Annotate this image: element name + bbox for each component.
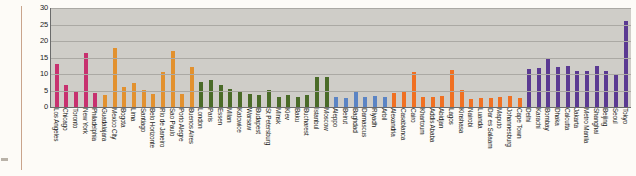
gridline-30 <box>51 8 631 9</box>
bar <box>566 66 570 107</box>
x-label-slot: Shanghai <box>591 108 601 176</box>
bar <box>142 90 146 107</box>
x-tick-label: Bombay <box>544 108 550 131</box>
x-tick-label: Arbil <box>380 108 386 120</box>
x-label-slot: Warsaw <box>244 108 254 176</box>
bar <box>392 93 396 107</box>
bar <box>74 92 78 107</box>
x-tick-label: Tokyo <box>621 108 627 124</box>
x-label-slot: Seoul <box>610 108 620 176</box>
x-label-slot: Riyadh <box>369 108 379 176</box>
x-label-slot: Aleppo <box>331 108 341 176</box>
bar <box>363 97 367 107</box>
x-tick-label: Santiago <box>139 108 145 132</box>
bar <box>383 97 387 107</box>
x-tick-label: Jakarta <box>573 108 579 128</box>
x-tick-label: Damascus <box>361 108 367 137</box>
bar <box>84 53 88 107</box>
x-tick-label: Budapest <box>255 108 261 134</box>
x-tick-label: Paris <box>207 108 213 122</box>
x-tick-label: Cape Town <box>515 108 521 139</box>
x-tick-label: Baku <box>294 108 300 122</box>
x-label-slot: Minsk <box>273 108 283 176</box>
bar <box>296 97 300 107</box>
bar <box>103 95 107 107</box>
bar <box>604 71 608 107</box>
x-tick-label: Minsk <box>274 108 280 124</box>
bar <box>489 98 493 107</box>
x-label-slot: Karachi <box>533 108 543 176</box>
x-tick-label: Calcutta <box>564 108 570 130</box>
bar <box>421 97 425 107</box>
x-tick-label: Buenos Aires <box>188 108 194 144</box>
bar <box>518 98 522 107</box>
bar <box>64 85 68 107</box>
x-label-slot: Philadelphia <box>90 108 100 176</box>
x-label-slot: Los Angeles <box>51 108 61 176</box>
x-label-slot: Lagos <box>446 108 456 176</box>
bar <box>93 93 97 107</box>
y-tick-label-0: 0 <box>44 103 48 111</box>
x-label-slot: Abidjan <box>437 108 447 176</box>
bar <box>180 94 184 107</box>
bar <box>402 92 406 107</box>
x-tick-label: Mexico City <box>110 108 116 139</box>
x-label-slot: Bogota <box>118 108 128 176</box>
x-tick-label: Alexandria <box>390 108 396 137</box>
x-label-slot: Essen <box>215 108 225 176</box>
bar <box>450 70 454 107</box>
bar <box>469 99 473 107</box>
x-label-slot: Calcutta <box>562 108 572 176</box>
x-label-slot: Baghdad <box>350 108 360 176</box>
x-tick-label: Chicago <box>62 108 68 130</box>
x-label-slot: Bombay <box>543 108 553 176</box>
x-label-slot: Kiev <box>282 108 292 176</box>
bar <box>508 96 512 107</box>
bar <box>595 66 599 107</box>
x-label-slot: Budapest <box>253 108 263 176</box>
x-tick-label: Dar es Salaam <box>486 108 492 148</box>
x-label-slot: Damascus <box>360 108 370 176</box>
x-label-slot: Jakarta <box>572 108 582 176</box>
x-label-slot: Istanbul <box>311 108 321 176</box>
x-tick-label: Rio de Janeiro <box>159 108 165 147</box>
x-label-slot: New York <box>80 108 90 176</box>
y-tick-label-25: 25 <box>40 21 48 29</box>
x-tick-label: Essen <box>217 108 223 125</box>
bar <box>546 58 550 108</box>
x-tick-label: Bucharest <box>303 108 309 135</box>
x-tick-label: Kiev <box>284 108 290 120</box>
bar <box>373 96 377 107</box>
x-axis-category-labels: Los AngelesChicagoTorontoNew YorkPhilade… <box>50 108 630 176</box>
bar <box>228 89 232 107</box>
x-tick-label: Lima <box>130 108 136 121</box>
bar <box>219 85 223 107</box>
y-axis-tick-labels: 051015202530 <box>28 4 48 107</box>
x-label-slot: Khartoum <box>417 108 427 176</box>
y-tick-label-10: 10 <box>40 70 48 78</box>
x-label-slot: St Petersburg <box>263 108 273 176</box>
x-tick-label: Luanda <box>477 108 483 128</box>
x-label-slot: Cape Town <box>514 108 524 176</box>
x-label-slot: Luanda <box>475 108 485 176</box>
x-tick-label: Karachi <box>535 108 541 129</box>
x-label-slot: Beirut <box>340 108 350 176</box>
x-tick-label: Seoul <box>612 108 618 124</box>
x-tick-label: Los Angeles <box>53 108 59 141</box>
x-label-slot: Dar es Salaam <box>485 108 495 176</box>
x-label-slot: Tokyo <box>620 108 630 176</box>
y-tick-label-30: 30 <box>40 4 48 12</box>
bar <box>238 92 242 108</box>
x-label-slot: Dhaka <box>552 108 562 176</box>
x-tick-label: Lagos <box>448 108 454 125</box>
bar <box>257 95 261 107</box>
x-tick-label: Toronto <box>72 108 78 128</box>
x-tick-label: Milan <box>226 108 232 123</box>
x-label-slot: Sao Paulo <box>167 108 177 176</box>
bar <box>440 96 444 107</box>
x-tick-label: Bogota <box>120 108 126 127</box>
x-tick-label: Nairobi <box>467 108 473 127</box>
x-label-slot: Paris <box>205 108 215 176</box>
x-tick-label: Istanbul <box>313 108 319 129</box>
x-label-slot: Toronto <box>70 108 80 176</box>
